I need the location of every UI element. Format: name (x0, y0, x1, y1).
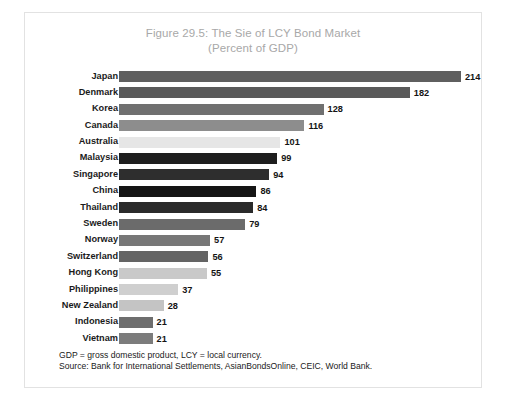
bar (119, 137, 280, 148)
category-label: Singapore (25, 168, 118, 180)
bar-track: 56 (119, 251, 477, 262)
bar-row: New Zealand28 (25, 298, 481, 314)
bar-value-label: 94 (273, 169, 283, 181)
bar-track: 214 (119, 71, 477, 82)
bar-track: 79 (119, 219, 477, 230)
bar-row: Canada116 (25, 118, 481, 134)
figure-footnotes: GDP = gross domestic product, LCY = loca… (59, 350, 372, 373)
bar-track: 101 (119, 137, 477, 148)
bar-row: Vietnam21 (25, 331, 481, 347)
bar (119, 317, 153, 328)
bar (119, 268, 207, 279)
category-label: Malaysia (25, 151, 118, 163)
bar-value-label: 214 (465, 71, 480, 83)
category-label: Vietnam (25, 332, 118, 344)
bar (119, 235, 210, 246)
bar-row: Indonesia21 (25, 315, 481, 331)
bar-row: Thailand84 (25, 200, 481, 216)
bar-track: 37 (119, 284, 477, 295)
bar-track: 21 (119, 333, 477, 344)
bar (119, 219, 245, 230)
bar-value-label: 84 (257, 202, 267, 214)
bar-value-label: 101 (284, 136, 299, 148)
bar-track: 84 (119, 202, 477, 213)
category-label: Indonesia (25, 315, 118, 327)
category-label: Switzerland (25, 250, 118, 262)
bar-row: Switzerland56 (25, 249, 481, 265)
bar-value-label: 79 (249, 218, 259, 230)
category-label: Sweden (25, 217, 118, 229)
figure-title-line-2: (Percent of GDP) (25, 41, 481, 56)
bar-value-label: 99 (281, 152, 291, 164)
category-label: Philippines (25, 283, 118, 295)
bar-value-label: 21 (157, 316, 167, 328)
bar-track: 55 (119, 268, 477, 279)
category-label: Canada (25, 119, 118, 131)
figure-title: Figure 29.5: The Sie of LCY Bond Market … (25, 26, 481, 56)
category-label: Hong Kong (25, 266, 118, 278)
category-label: Korea (25, 102, 118, 114)
bar (119, 251, 208, 262)
bar-row: Sweden79 (25, 217, 481, 233)
category-label: China (25, 184, 118, 196)
bar-value-label: 56 (212, 251, 222, 263)
bar (119, 300, 164, 311)
bar (119, 186, 256, 197)
category-label: Norway (25, 233, 118, 245)
bar (119, 120, 304, 131)
category-label: Japan (25, 70, 118, 82)
bar-row: China86 (25, 184, 481, 200)
category-label: Denmark (25, 86, 118, 98)
bar-track: 28 (119, 300, 477, 311)
bar-row: Australia101 (25, 135, 481, 151)
bar-row: Japan214 (25, 69, 481, 85)
figure-title-line-1: Figure 29.5: The Sie of LCY Bond Market (25, 26, 481, 41)
bar (119, 71, 461, 82)
bar-track: 99 (119, 153, 477, 164)
bar-chart-plot-area: Japan214Denmark182Korea128Canada116Austr… (25, 69, 481, 319)
bar (119, 153, 277, 164)
bar-track: 21 (119, 317, 477, 328)
bar-value-label: 37 (182, 284, 192, 296)
category-label: New Zealand (25, 299, 118, 311)
bar-value-label: 128 (328, 103, 343, 115)
bar (119, 284, 178, 295)
bar-row: Singapore94 (25, 167, 481, 183)
bar-row: Korea128 (25, 102, 481, 118)
bar-track: 57 (119, 235, 477, 246)
bar-value-label: 57 (214, 234, 224, 246)
category-label: Thailand (25, 201, 118, 213)
bar-value-label: 28 (168, 300, 178, 312)
bar-value-label: 182 (414, 87, 429, 99)
bar (119, 104, 324, 115)
bar-row: Hong Kong55 (25, 266, 481, 282)
bar-row: Denmark182 (25, 85, 481, 101)
category-label: Australia (25, 135, 118, 147)
bar-track: 182 (119, 87, 477, 98)
bar (119, 333, 153, 344)
bar (119, 202, 253, 213)
bar-row: Philippines37 (25, 282, 481, 298)
bar-value-label: 116 (308, 120, 323, 132)
bar-value-label: 86 (260, 185, 270, 197)
bar-value-label: 55 (211, 267, 221, 279)
bar-track: 128 (119, 104, 477, 115)
bar-track: 86 (119, 186, 477, 197)
bar (119, 87, 410, 98)
bar-track: 94 (119, 169, 477, 180)
footnote-definitions: GDP = gross domestic product, LCY = loca… (59, 350, 372, 362)
bar-value-label: 21 (157, 333, 167, 345)
footnote-source: Source: Bank for International Settlemen… (59, 361, 372, 373)
bar-row: Malaysia99 (25, 151, 481, 167)
figure-frame: Figure 29.5: The Sie of LCY Bond Market … (24, 12, 482, 388)
bar-track: 116 (119, 120, 477, 131)
bar-row: Norway57 (25, 233, 481, 249)
bar (119, 169, 269, 180)
